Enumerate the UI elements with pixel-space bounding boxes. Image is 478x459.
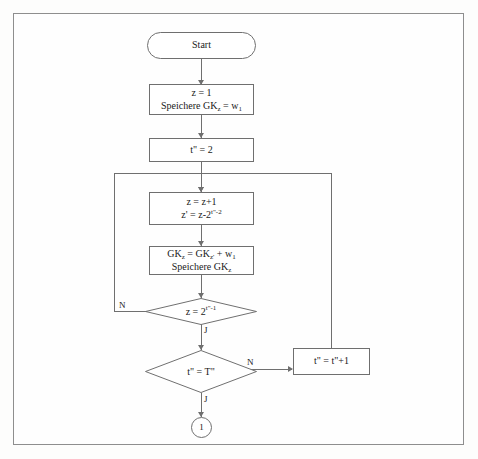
decision-z-no-label: N [119,300,126,310]
decision-t-label: t" = T" [145,350,257,393]
node-increment-t-label: t" = t"+1 [314,355,349,368]
flowchart-page: Start z = 1 Speichere GKz = w1 t" = 2 z … [0,0,478,459]
node-accumulate-line2: Speichere GKz [172,261,231,274]
node-connector-label: 1 [199,422,204,433]
node-accumulate-line1: GKz = GKz' + w1 [167,248,235,261]
edge-incrementt-loop-up [331,173,332,348]
node-increment[interactable]: z = z+1 z' = z-2t"-2 [149,192,254,225]
node-start[interactable]: Start [147,32,256,59]
edge-decisionz-no-top [114,173,202,174]
decision-z-yes-label: J [204,325,208,335]
node-init[interactable]: z = 1 Speichere GKz = w1 [149,84,254,115]
node-increment-t[interactable]: t" = t"+1 [293,348,370,375]
node-decision-t[interactable]: t" = T" [145,350,257,393]
node-set-t[interactable]: t" = 2 [149,138,254,162]
node-accumulate[interactable]: GKz = GKz' + w1 Speichere GKz [149,246,254,275]
decision-t-no-label: N [247,357,254,367]
node-decision-z[interactable]: z = 2t"-1 [145,298,257,325]
node-init-line1: z = 1 [191,87,211,100]
decision-t-yes-label: J [204,394,208,404]
node-set-t-label: t" = 2 [190,144,213,157]
edge-decisionz-no-up [114,173,115,312]
node-connector[interactable]: 1 [191,417,212,438]
edge-incrementt-loop-left [202,173,332,174]
decision-z-label: z = 2t"-1 [145,298,257,325]
node-increment-line2: z' = z-2t"-2 [181,209,221,222]
node-init-line2: Speichere GKz = w1 [161,100,242,113]
page-border: Start z = 1 Speichere GKz = w1 t" = 2 z … [13,13,464,445]
node-start-label: Start [192,39,211,52]
